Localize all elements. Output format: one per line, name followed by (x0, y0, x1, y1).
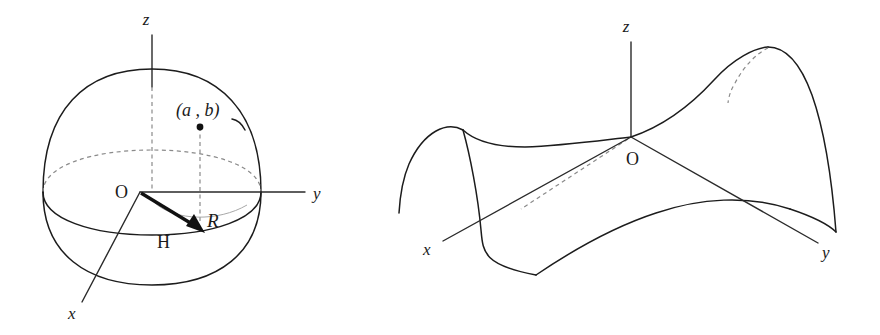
left-origin-label: O (115, 182, 128, 202)
figure-root: z y x O (a , b) H R (0, 0, 880, 335)
radius-R-label: R (206, 210, 219, 231)
diagram-canvas: z y x O (a , b) H R (0, 0, 880, 335)
right-x-axis-label: x (422, 240, 431, 259)
left-x-axis (82, 192, 140, 302)
right-x-axis (443, 137, 631, 241)
left-diagram-group: z y x O (a , b) H R (43, 10, 321, 323)
saddle-left-side-edge (463, 130, 536, 275)
point-label-leader (232, 119, 245, 130)
right-origin-label: O (626, 149, 639, 169)
saddle-front-valley-curve (536, 200, 790, 275)
dome-lower-outline (43, 192, 261, 285)
point-ab-marker (197, 124, 204, 131)
saddle-right-flank (768, 47, 836, 232)
saddle-front-valley-right (790, 209, 836, 232)
saddle-hidden-peak-edge (728, 48, 768, 103)
right-y-axis-label: y (820, 243, 830, 262)
saddle-hidden-back-ridge (521, 139, 628, 209)
saddle-left-crest (399, 127, 463, 213)
left-x-axis-label: x (67, 304, 76, 323)
vector-H-shaft (141, 193, 197, 227)
right-y-axis (631, 137, 818, 243)
left-z-axis-label: z (142, 10, 150, 29)
saddle-back-left-upper-edge (463, 130, 631, 147)
point-ab-label: (a , b) (176, 100, 220, 121)
vector-H-label: H (157, 232, 170, 252)
right-diagram-group: z O x y (399, 17, 836, 275)
right-z-axis-label: z (622, 17, 630, 36)
left-y-axis-label: y (311, 184, 321, 203)
saddle-right-upper-edge (631, 47, 768, 137)
